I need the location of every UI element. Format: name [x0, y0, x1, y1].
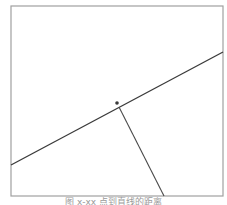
diagram-canvas — [0, 0, 227, 205]
figure-caption: 图 x-xx 点到直线的距离 — [0, 197, 227, 205]
perpendicular-segment — [119, 107, 164, 196]
straight-line — [11, 52, 223, 165]
frame-border — [11, 6, 223, 196]
figure — [0, 0, 227, 205]
point-marker — [115, 101, 119, 105]
